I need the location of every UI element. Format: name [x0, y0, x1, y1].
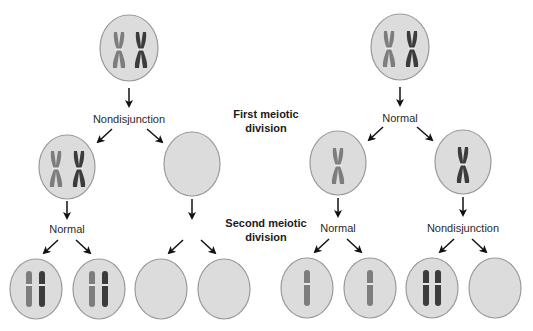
stage-line: division [225, 230, 306, 244]
right-parent-cell [371, 14, 429, 80]
arrow-right [472, 239, 486, 252]
first-meiotic-division-label: First meiotic division [233, 107, 298, 135]
meiosis-diagram [0, 0, 533, 331]
left-daughter-cell-n+1 [39, 135, 95, 199]
arrow-right [76, 240, 90, 253]
gamete-2 [73, 259, 125, 319]
arrow-left [440, 239, 454, 252]
stage-line: division [233, 121, 298, 135]
right-daughter-cell-2 [435, 130, 491, 194]
gamete-8 [469, 258, 521, 318]
gamete-5 [281, 258, 333, 318]
arrow-left [98, 129, 112, 142]
arrow-left [169, 240, 183, 253]
stage-line: First meiotic [233, 107, 298, 121]
gamete-1 [10, 259, 62, 319]
arrow-right [147, 129, 162, 142]
left-daughter-cell-n-1 [164, 132, 220, 196]
arrow-left [369, 127, 383, 140]
gamete-3 [135, 259, 187, 319]
gamete-4 [198, 259, 250, 319]
second-meiotic-division-label: Second meiotic division [225, 216, 306, 244]
left-second-division-label: Normal [49, 223, 84, 235]
right-second-division-label-right: Nondisjunction [427, 222, 499, 234]
right-second-division-label-left: Normal [320, 222, 355, 234]
arrow-right [417, 127, 432, 140]
gamete-6 [344, 258, 396, 318]
arrow-right [201, 240, 215, 253]
arrow-left [44, 240, 58, 253]
right-first-division-label: Normal [382, 112, 417, 124]
right-daughter-cell-1 [310, 131, 366, 195]
gamete-7 [406, 258, 458, 318]
arrow-right [347, 239, 361, 252]
arrow-left [315, 239, 329, 252]
left-parent-cell [100, 15, 158, 81]
stage-line: Second meiotic [225, 216, 306, 230]
left-first-division-label: Nondisjunction [93, 113, 165, 125]
